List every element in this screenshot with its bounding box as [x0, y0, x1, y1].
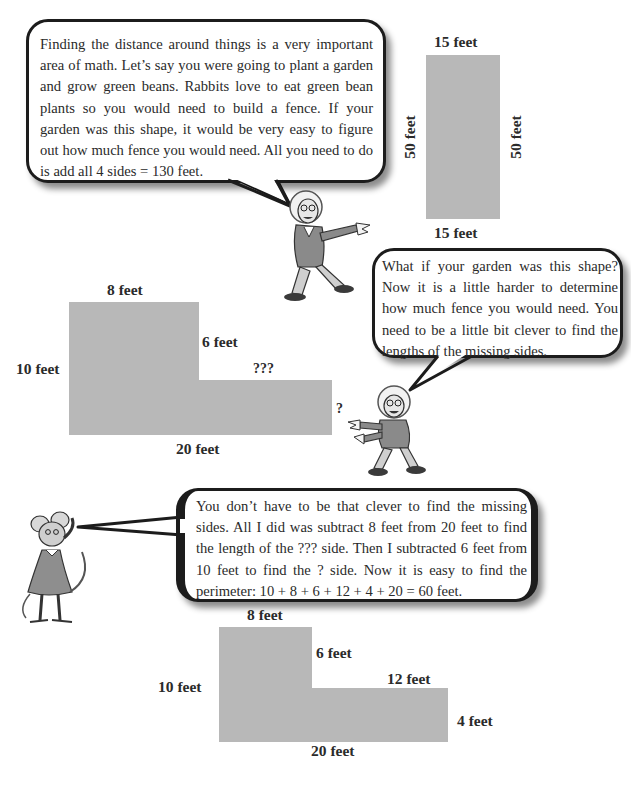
l2-left-label: 10 feet [158, 678, 201, 696]
l1-inner-vertical-label: 6 feet [202, 333, 238, 351]
l1-inner-horizontal-label: ??? [253, 361, 274, 377]
l1-right-label: ? [336, 401, 343, 417]
rect-right-label: 50 feet [507, 107, 525, 167]
rectangle-garden [426, 55, 500, 219]
l1-bottom-label: 20 feet [176, 440, 219, 458]
l1-top-label: 8 feet [107, 281, 143, 299]
l2-right-label: 4 feet [457, 712, 493, 730]
l2-bottom-label: 20 feet [311, 742, 354, 760]
l2-inner-vertical-label: 6 feet [316, 644, 352, 662]
rect-top-label: 15 feet [434, 33, 477, 51]
l2-inner-horizontal-label: 12 feet [387, 670, 430, 688]
mouse-character-icon [18, 508, 98, 628]
rect-bottom-label: 15 feet [434, 224, 477, 242]
l1-left-label: 10 feet [16, 360, 59, 378]
professor-crouching-icon [348, 380, 438, 480]
rect-left-label: 50 feet [401, 107, 419, 167]
bubble-text-question: What if your garden was this shape? Now … [382, 256, 618, 362]
bubble-text-answer: You don’t have to be that clever to find… [196, 496, 527, 602]
l2-top-label: 8 feet [247, 606, 283, 624]
bubble-text-intro: Finding the distance around things is a … [40, 34, 373, 182]
